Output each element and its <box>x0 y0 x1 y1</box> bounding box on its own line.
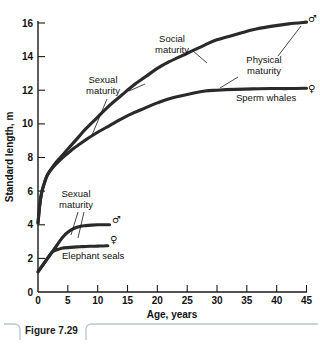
figure-caption: Figure 7.29 <box>4 324 318 340</box>
sexual-maturity-seals-label-line2: maturity <box>59 199 93 210</box>
y-tick-label-6: 6 <box>27 186 33 197</box>
physical-maturity-leader-female <box>220 77 238 88</box>
female-symbol-elephant-seal: ♀ <box>110 234 117 245</box>
y-tick-label-10: 10 <box>22 118 34 129</box>
male-symbol-sperm-whale: ♂ <box>308 13 317 24</box>
x-axis-tick-labels: 0 5 10 15 20 25 30 35 40 45 <box>35 295 312 306</box>
x-tick-label-30: 30 <box>211 295 223 306</box>
x-axis-ticks <box>68 285 307 292</box>
caption-left-bracket <box>4 324 20 340</box>
x-tick-label-25: 25 <box>182 295 194 306</box>
caption-text: Figure 7.29 <box>25 325 78 336</box>
y-tick-label-16: 16 <box>22 18 34 29</box>
x-tick-label-0: 0 <box>35 295 41 306</box>
x-tick-label-5: 5 <box>65 295 71 306</box>
y-tick-label-14: 14 <box>22 51 34 62</box>
sexual-maturity-seals-leader-male <box>71 212 78 235</box>
physical-maturity-label-line2: maturity <box>247 65 281 76</box>
social-maturity-label-line1: Social <box>159 33 185 44</box>
x-tick-label-35: 35 <box>241 295 253 306</box>
sexual-maturity-whales-label-line1: Sexual <box>88 74 117 85</box>
physical-maturity-leader-male <box>278 26 301 56</box>
elephant-seals-group-label: Elephant seals <box>62 250 125 261</box>
y-tick-label-12: 12 <box>22 85 34 96</box>
y-tick-label-8: 8 <box>27 152 33 163</box>
y-tick-label-4: 4 <box>27 219 33 230</box>
x-tick-label-45: 45 <box>301 295 313 306</box>
sexual-maturity-whales-label-line2: maturity <box>86 85 120 96</box>
sexual-maturity-seals-label-line1: Sexual <box>61 188 90 199</box>
x-tick-label-15: 15 <box>122 295 134 306</box>
y-tick-label-0: 0 <box>27 287 33 298</box>
x-tick-label-10: 10 <box>92 295 104 306</box>
annotation-sexual-maturity-seals: Sexual maturity <box>59 188 93 238</box>
growth-curve-chart: 16 14 12 10 8 6 4 2 0 0 5 10 15 <box>0 0 320 346</box>
y-tick-label-2: 2 <box>27 253 33 264</box>
y-axis-title: Standard length, m <box>4 112 15 203</box>
sex-symbols: ♂ ♀ ♂ ♀ <box>110 13 317 245</box>
caption-right-bracket <box>86 324 318 340</box>
physical-maturity-label-line1: Physical <box>246 54 281 65</box>
x-tick-label-20: 20 <box>152 295 164 306</box>
y-axis-tick-labels: 16 14 12 10 8 6 4 2 0 <box>22 18 34 298</box>
male-symbol-elephant-seal: ♂ <box>112 214 121 225</box>
figure-container: 16 14 12 10 8 6 4 2 0 0 5 10 15 <box>0 0 320 346</box>
female-symbol-sperm-whale: ♀ <box>308 83 315 94</box>
x-tick-label-40: 40 <box>271 295 283 306</box>
sperm-whales-group-label: Sperm whales <box>236 92 296 103</box>
x-axis-title: Age, years <box>147 309 198 320</box>
social-maturity-label-line2: maturity <box>155 44 189 55</box>
social-maturity-leader <box>192 50 207 63</box>
